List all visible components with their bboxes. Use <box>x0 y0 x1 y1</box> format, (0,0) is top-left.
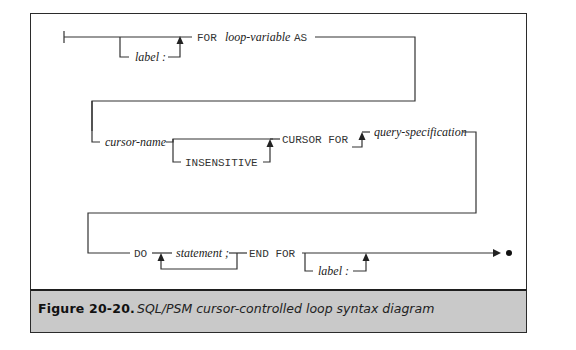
row-2: cursor-name INSENSITIVE CURSOR FOR query… <box>88 101 476 253</box>
row3-do-keyword: DO <box>134 248 148 260</box>
row2-cursor-name: cursor-name <box>105 135 167 149</box>
row1-for-keyword: FOR <box>197 32 217 44</box>
arrow-up-icon <box>359 132 366 140</box>
row2-cursor-for-keyword: CURSOR FOR <box>282 134 348 146</box>
row2-insensitive-keyword: INSENSITIVE <box>185 157 258 169</box>
row1-as-keyword: AS <box>294 32 308 44</box>
row-3: DO statement ; END FOR label : <box>134 246 512 278</box>
row2-query-specification: query-specification <box>374 125 467 139</box>
row3-end-for-keyword: END FOR <box>249 248 296 260</box>
row3-label-term: label : <box>318 264 349 278</box>
figure-number: Figure 20-20. <box>38 301 135 316</box>
arrow-up-icon <box>267 139 274 147</box>
row1-label-term: label : <box>135 50 166 64</box>
arrow-up-icon <box>363 253 370 261</box>
row-1: label : FOR loop-variable AS <box>64 30 415 142</box>
end-dot <box>506 250 512 256</box>
arrow-up-icon <box>158 253 165 261</box>
figure-title: SQL/PSM cursor-controlled loop syntax di… <box>137 301 434 316</box>
figure-caption: Figure 20-20. SQL/PSM cursor-controlled … <box>30 289 527 333</box>
row1-loop-variable: loop-variable <box>225 30 291 44</box>
row3-statement-term: statement ; <box>176 246 229 260</box>
